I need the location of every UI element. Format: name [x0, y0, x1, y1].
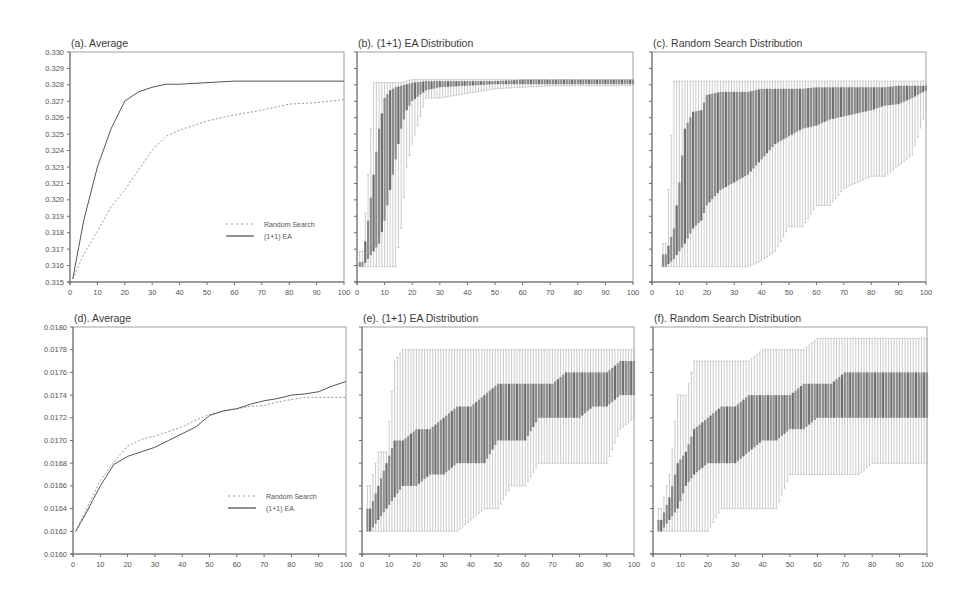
box-generation — [711, 94, 713, 199]
box-generation — [502, 384, 504, 441]
x-tick-label: 50 — [491, 288, 499, 297]
box-generation — [426, 429, 428, 477]
box-generation — [813, 88, 815, 127]
box-generation — [377, 486, 379, 520]
box-generation — [494, 386, 496, 445]
x-tick-label: 60 — [813, 560, 821, 569]
box-generation — [462, 406, 464, 463]
box-generation — [615, 80, 617, 85]
x-tick-label: 80 — [868, 560, 876, 569]
box-generation — [892, 86, 894, 104]
box-generation — [923, 372, 925, 417]
box-generation — [527, 384, 529, 436]
box-generation — [677, 463, 679, 508]
box-generation — [573, 372, 575, 417]
box-generation — [818, 87, 820, 124]
x-tick-label: 60 — [233, 560, 241, 569]
panel-title: (c). Random Search Distribution — [653, 37, 803, 49]
box-generation — [587, 372, 589, 411]
box-generation — [682, 456, 684, 494]
box-generation — [815, 87, 817, 125]
box-generation — [469, 81, 471, 85]
box-generation — [428, 81, 430, 90]
box-generation — [475, 81, 477, 85]
box-generation — [838, 377, 840, 418]
box-generation — [444, 81, 446, 87]
box-generation — [491, 388, 493, 449]
ea-line — [76, 381, 346, 531]
x-tick-label: 70 — [548, 560, 556, 569]
box-generation — [919, 86, 921, 94]
box-generation — [780, 89, 782, 141]
box-generation — [762, 395, 764, 440]
box-generation — [579, 80, 581, 85]
box-generation — [603, 372, 605, 406]
box-generation — [372, 175, 374, 252]
box-generation — [663, 512, 665, 527]
x-tick-label: 80 — [575, 560, 583, 569]
box-generation — [804, 88, 806, 128]
box-generation — [696, 427, 698, 472]
box-generation — [692, 112, 694, 229]
x-tick-label: 80 — [867, 288, 875, 297]
box-generation — [596, 80, 598, 85]
box-generation — [375, 152, 377, 248]
box-generation — [712, 413, 714, 463]
legend-label-random: Random Search — [266, 493, 317, 500]
x-tick-label: 80 — [287, 560, 295, 569]
legend-label-ea: (1+1) EA — [264, 233, 292, 241]
box-generation — [584, 372, 586, 413]
box-generation — [811, 384, 813, 423]
x-tick-label: 20 — [412, 560, 420, 569]
box-generation — [448, 413, 450, 470]
box-generation — [403, 85, 405, 120]
box-generation — [613, 80, 615, 85]
figure-canvas: (a). Average01020304050607080901000.3300… — [0, 0, 973, 598]
box-generation — [766, 89, 768, 153]
box-generation — [785, 89, 787, 138]
box-generation — [856, 87, 858, 113]
box-generation — [895, 86, 897, 104]
x-tick-label: 10 — [385, 560, 393, 569]
y-tick-label: 0.0164 — [44, 504, 67, 513]
x-tick-label: 50 — [203, 288, 211, 297]
box-generation — [802, 89, 804, 129]
box-generation — [729, 406, 731, 463]
x-tick-label: 80 — [574, 288, 582, 297]
box-generation — [577, 80, 579, 85]
box-generation — [843, 87, 845, 116]
box-generation — [535, 80, 537, 85]
box-generation — [372, 501, 374, 527]
box-generation — [410, 434, 412, 486]
box-generation — [884, 87, 886, 105]
box-generation — [443, 418, 445, 475]
box-generation — [751, 395, 753, 449]
x-tick-label: 40 — [178, 560, 186, 569]
box-generation — [472, 404, 474, 463]
box-generation — [450, 81, 452, 87]
box-generation — [660, 520, 662, 531]
box-generation — [901, 372, 903, 417]
box-generation — [896, 372, 898, 417]
x-tick-label: 80 — [285, 288, 293, 297]
box-generation — [599, 80, 601, 85]
box-generation — [822, 384, 824, 418]
box-generation — [829, 87, 831, 119]
box-generation — [728, 92, 730, 186]
box-generation — [602, 80, 604, 85]
box-generation — [915, 372, 917, 417]
box-generation — [470, 406, 472, 463]
x-tick-label: 0 — [68, 288, 72, 297]
box-generation — [455, 81, 457, 86]
box-generation — [516, 384, 518, 441]
box-generation — [742, 400, 744, 457]
box-generation — [385, 463, 387, 508]
y-tick-label: 0.318 — [45, 228, 64, 237]
box-generation — [429, 429, 431, 474]
box-generation — [519, 384, 521, 441]
x-tick-label: 20 — [408, 288, 416, 297]
box-generation — [782, 89, 784, 140]
x-tick-label: 30 — [730, 288, 738, 297]
x-tick-label: 40 — [175, 288, 183, 297]
box-generation — [788, 89, 790, 137]
